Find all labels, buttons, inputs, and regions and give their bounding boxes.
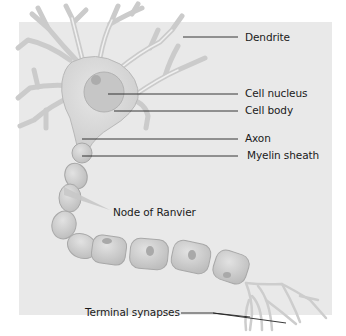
- myelin-segment: [72, 143, 92, 163]
- label-terminal-synapses: Terminal synapses: [85, 307, 180, 318]
- neuron-diagram: Dendrite Cell nucleus Cell body Axon Mye…: [0, 0, 346, 336]
- label-dendrite: Dendrite: [245, 32, 290, 43]
- label-cell-nucleus: Cell nucleus: [245, 88, 307, 99]
- label-myelin-sheath: Myelin sheath: [247, 150, 319, 161]
- dendrite-branch: [100, 6, 118, 58]
- nucleolus: [91, 75, 101, 85]
- myelin-segment: [210, 247, 252, 286]
- cell-nucleus: [84, 72, 124, 112]
- dendrite-branch: [74, 10, 86, 22]
- dendrite-branch: [34, 70, 38, 87]
- label-cell-body: Cell body: [245, 105, 293, 116]
- neuron-illustration: [0, 0, 346, 336]
- leader-terminal-synapses-c: [213, 313, 286, 323]
- label-axon: Axon: [245, 133, 271, 144]
- label-node-of-ranvier: Node of Ranvier: [113, 207, 196, 218]
